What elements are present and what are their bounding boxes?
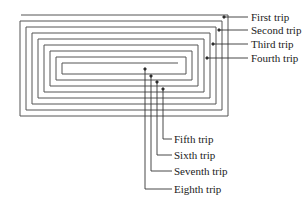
spiral-path [20, 15, 228, 116]
spiral-trip-diagram: First trip Second trip Third trip Fourth… [0, 0, 308, 209]
label-sixth-trip: Sixth trip [174, 149, 215, 161]
label-seventh-trip: Seventh trip [174, 165, 227, 177]
label-fifth-trip: Fifth trip [174, 133, 213, 145]
label-first-trip: First trip [251, 11, 289, 23]
label-fourth-trip: Fourth trip [251, 52, 298, 64]
label-third-trip: Third trip [251, 38, 293, 50]
label-eighth-trip: Eighth trip [174, 183, 221, 195]
label-second-trip: Second trip [251, 24, 301, 36]
